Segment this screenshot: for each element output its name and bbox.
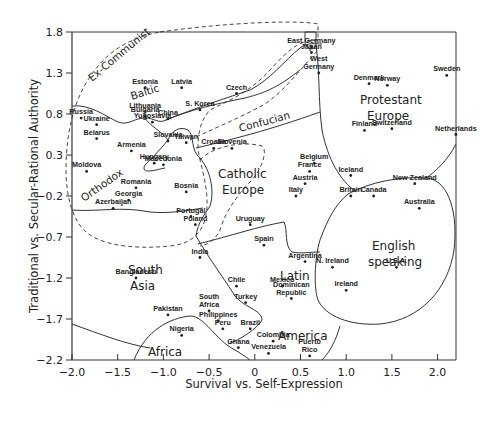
- point-marker: [363, 129, 366, 132]
- data-point: India: [192, 247, 210, 259]
- point-marker: [349, 195, 352, 198]
- point-label: Turkey: [234, 292, 257, 301]
- region-label-catholic-europe-2: Europe: [222, 183, 264, 197]
- y-axis-ticks: 1.81.30.80.3−0.2−0.7−1.2−1.7−2.2: [36, 26, 72, 367]
- data-point: Australia: [404, 197, 436, 209]
- country-points: East GermanyJapanEstoniaLatviaCzechWestG…: [69, 36, 476, 358]
- data-point: Latvia: [171, 77, 193, 89]
- point-marker: [418, 207, 421, 210]
- point-label: Australia: [404, 197, 436, 206]
- data-point: Brazil: [240, 318, 260, 330]
- point-marker: [317, 72, 320, 75]
- data-point: Canada: [361, 185, 388, 197]
- point-label: Colombia: [257, 330, 291, 339]
- point-label: Africa: [199, 300, 220, 309]
- data-point: Moldova: [72, 160, 102, 172]
- y-tick-label: −2.2: [36, 354, 63, 367]
- point-marker: [180, 334, 183, 337]
- data-point: Ireland: [334, 279, 358, 291]
- point-label: Bosnia: [174, 181, 199, 190]
- point-marker: [199, 256, 202, 259]
- point-marker: [80, 117, 83, 120]
- data-point: Bosnia: [174, 181, 199, 193]
- point-label: Japan: [301, 42, 322, 51]
- point-label: Slovakia: [153, 130, 183, 139]
- point-marker: [349, 174, 352, 177]
- point-label: N. Ireland: [316, 256, 349, 265]
- point-label: New Zealand: [393, 173, 437, 182]
- point-marker: [199, 109, 202, 112]
- data-point: Nigeria: [169, 324, 194, 336]
- data-point: Uruguay: [236, 214, 265, 226]
- point-marker: [295, 195, 298, 198]
- point-marker: [331, 266, 334, 269]
- point-label: Norway: [374, 74, 400, 83]
- data-point: Peru: [215, 318, 231, 330]
- point-label: Poland: [183, 214, 207, 223]
- point-marker: [391, 127, 394, 130]
- x-tick-label: −1.0: [150, 366, 177, 379]
- data-point: DominicanRepublic: [273, 280, 310, 300]
- x-axis-title: Survival vs. Self-Expression: [185, 377, 343, 391]
- point-label: Peru: [215, 318, 231, 327]
- point-marker: [185, 141, 188, 144]
- point-label: Iceland: [338, 165, 363, 174]
- point-label: Britain: [339, 185, 362, 194]
- point-label: Sweden: [433, 64, 460, 73]
- point-label: Belarus: [83, 128, 109, 137]
- point-label: Pakistan: [153, 304, 183, 313]
- point-label: Canada: [361, 185, 388, 194]
- x-axis-ticks: −2.0−1.5−1.0−0.500.51.01.52.0: [59, 354, 447, 379]
- data-point: Austria: [293, 173, 319, 185]
- point-marker: [112, 207, 115, 210]
- point-marker: [395, 266, 398, 269]
- y-tick-label: 0.3: [46, 149, 64, 162]
- point-marker: [144, 86, 147, 89]
- point-label: Italy: [289, 185, 303, 194]
- point-label: Czech: [226, 83, 247, 92]
- point-marker: [249, 223, 252, 226]
- point-label: India: [192, 247, 210, 256]
- point-marker: [267, 352, 270, 355]
- x-tick-label: 1.5: [383, 366, 401, 379]
- point-label: Azerbaijan: [95, 197, 131, 206]
- point-marker: [386, 84, 389, 87]
- point-marker: [263, 244, 266, 247]
- point-label: Bangladesh: [116, 267, 157, 276]
- point-marker: [445, 74, 448, 77]
- point-label: Macedonia: [145, 154, 183, 163]
- data-point: Chile: [228, 275, 246, 287]
- point-label: Croatia: [201, 137, 227, 146]
- point-marker: [212, 147, 215, 150]
- y-tick-label: 0.8: [46, 108, 64, 121]
- point-label: Romania: [121, 177, 152, 186]
- point-label: Nigeria: [169, 324, 194, 333]
- point-label: France: [298, 160, 322, 169]
- point-label: Ghana: [227, 337, 250, 346]
- data-point: Netherlands: [435, 124, 477, 136]
- point-label: Ireland: [334, 279, 358, 288]
- point-label: Netherlands: [435, 124, 477, 133]
- data-point: Italy: [289, 185, 303, 197]
- point-marker: [95, 137, 98, 140]
- point-marker: [135, 277, 138, 280]
- point-marker: [167, 118, 170, 121]
- region-label-africa: Africa: [148, 345, 182, 359]
- point-label: U.S.A.: [386, 256, 407, 265]
- point-marker: [130, 150, 133, 153]
- point-marker: [167, 314, 170, 317]
- region-label-protestant-europe-1: Protestant: [360, 93, 422, 107]
- data-point: Azerbaijan: [95, 197, 131, 209]
- point-label: Estonia: [132, 77, 159, 86]
- point-label: Austria: [293, 173, 319, 182]
- point-marker: [345, 289, 348, 292]
- point-marker: [85, 170, 88, 173]
- y-tick-label: −1.7: [36, 313, 63, 326]
- cultural-map-chart: −2.0−1.5−1.0−0.500.51.01.52.0 1.81.30.80…: [0, 0, 480, 446]
- point-label: Latvia: [171, 77, 193, 86]
- point-marker: [151, 121, 154, 124]
- point-marker: [368, 82, 371, 85]
- region-label-ex-communist: Ex-Communist: [86, 25, 152, 83]
- point-label: Republic: [276, 288, 306, 297]
- south-asia-lower-boundary: [72, 324, 150, 348]
